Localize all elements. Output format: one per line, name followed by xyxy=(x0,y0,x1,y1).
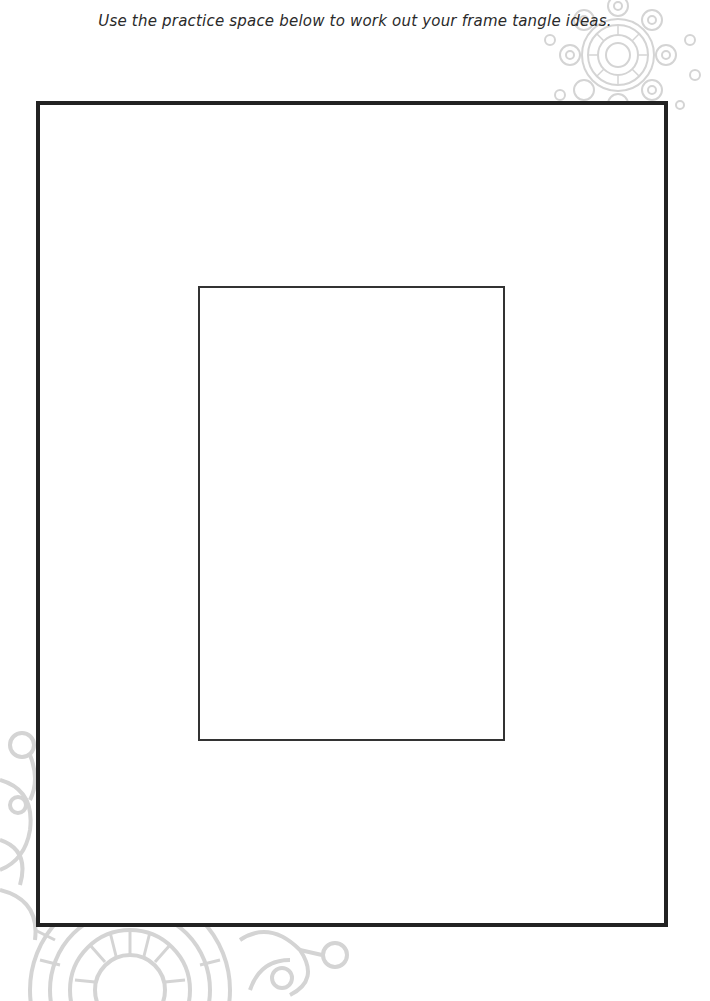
instruction-text: Use the practice space below to work out… xyxy=(0,12,710,30)
inner-practice-frame[interactable] xyxy=(198,286,505,741)
